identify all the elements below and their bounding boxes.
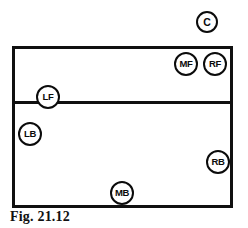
player-marker-label: MB — [115, 188, 129, 198]
player-marker-label: RF — [209, 59, 221, 69]
player-marker-lf: LF — [36, 85, 60, 109]
player-marker-rb: RB — [206, 150, 230, 174]
player-marker-c: C — [196, 11, 218, 33]
player-marker-label: C — [203, 17, 210, 28]
figure-page: CMFRFLFLBRBMB Fig. 21.12 — [0, 0, 248, 228]
court-diagram: CMFRFLFLBRBMB — [0, 0, 248, 205]
player-marker-label: LB — [24, 129, 36, 139]
player-marker-label: LF — [42, 92, 53, 102]
player-marker-label: MF — [179, 59, 192, 69]
player-marker-lb: LB — [18, 122, 42, 146]
player-marker-mf: MF — [174, 52, 198, 76]
figure-caption: Fig. 21.12 — [10, 209, 70, 225]
player-marker-rf: RF — [203, 52, 227, 76]
player-marker-label: RB — [211, 157, 224, 167]
player-marker-mb: MB — [110, 181, 134, 205]
